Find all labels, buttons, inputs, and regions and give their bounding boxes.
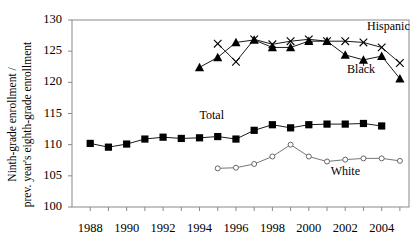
marker-circle (233, 165, 238, 170)
marker-square (251, 127, 258, 134)
marker-square (287, 124, 294, 131)
series-total (87, 120, 386, 151)
marker-circle (379, 156, 384, 161)
y-tick-label: 130 (32, 12, 62, 27)
chart-figure: Ninth-grade enrollment / prev. year's ei… (0, 0, 417, 249)
y-tick-label: 125 (32, 43, 62, 58)
marker-square (87, 140, 94, 147)
series-label-white: White (331, 164, 360, 179)
marker-circle (397, 158, 402, 163)
marker-square (360, 120, 367, 127)
marker-square (342, 120, 349, 127)
marker-circle (288, 142, 293, 147)
marker-circle (252, 161, 257, 166)
series-label-total: Total (200, 108, 225, 123)
x-tick-label: 2004 (359, 221, 405, 236)
series-white (215, 142, 402, 171)
marker-square (141, 135, 148, 142)
marker-triangle (341, 50, 350, 59)
series-label-hispanic: Hispanic (367, 19, 410, 34)
marker-square (123, 140, 130, 147)
plot-canvas (0, 0, 417, 249)
marker-triangle (377, 52, 386, 61)
marker-square (196, 134, 203, 141)
marker-square (378, 122, 385, 129)
marker-triangle (195, 63, 204, 72)
marker-square (105, 144, 112, 151)
y-tick-label: 110 (32, 137, 62, 152)
marker-circle (215, 166, 220, 171)
marker-square (178, 135, 185, 142)
marker-square (232, 135, 239, 142)
marker-square (269, 121, 276, 128)
marker-square (305, 121, 312, 128)
marker-square (323, 120, 330, 127)
series-label-black: Black (347, 62, 375, 77)
marker-circle (270, 154, 275, 159)
marker-triangle (213, 53, 222, 62)
marker-circle (343, 157, 348, 162)
marker-circle (325, 159, 330, 164)
y-tick-label: 100 (32, 199, 62, 214)
marker-circle (306, 154, 311, 159)
y-tick-label: 115 (32, 106, 62, 121)
y-tick-label: 120 (32, 74, 62, 89)
marker-circle (361, 156, 366, 161)
marker-square (214, 133, 221, 140)
series-line (90, 123, 381, 147)
y-tick-label: 105 (32, 168, 62, 183)
marker-square (159, 134, 166, 141)
